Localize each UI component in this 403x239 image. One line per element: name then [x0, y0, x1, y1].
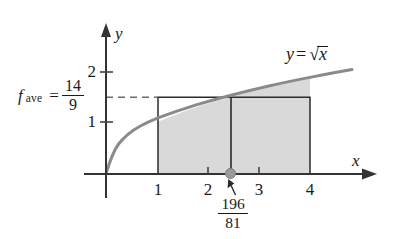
y-tick-label-1: 1 — [74, 113, 96, 130]
c-value-marker-dot — [226, 169, 236, 179]
fave-fraction: 14 9 — [62, 78, 84, 114]
fave-numerator: 14 — [62, 78, 84, 94]
x-axis-arrowhead — [362, 169, 377, 180]
fave-label: fave = 14 9 — [18, 78, 84, 114]
x-tick-label-1: 1 — [148, 181, 168, 198]
fave-denominator: 9 — [66, 97, 80, 113]
fave-equals: = — [49, 87, 59, 104]
graph-canvas — [0, 0, 403, 239]
sqrt-argument: x — [319, 44, 327, 64]
c-value-denominator: 81 — [222, 215, 244, 231]
curve-equation-label: y=√x — [286, 45, 327, 63]
y-axis-arrowhead — [101, 23, 111, 37]
fave-subscript: ave — [26, 93, 43, 105]
c-value-fraction-wrap: 196 81 — [206, 196, 260, 231]
radical-vinculum — [317, 46, 328, 47]
figure-container: y x 2 1 1 2 3 4 y=√x fave = 14 9 196 81 — [0, 0, 403, 239]
curve-label-equals: = — [294, 44, 308, 64]
x-tick-label-4: 4 — [300, 181, 320, 198]
fave-symbol: f — [18, 87, 23, 104]
curve-label-y: y — [286, 44, 294, 64]
c-value-pointer-arrowhead — [228, 179, 235, 188]
sqrt-radical-icon: √x — [308, 45, 327, 63]
sqrt-symbol: √ — [309, 44, 319, 64]
c-value-fraction: 196 81 — [218, 196, 247, 231]
y-axis-label: y — [115, 25, 123, 42]
c-value-numerator: 196 — [218, 196, 247, 212]
x-axis-label: x — [352, 152, 360, 169]
